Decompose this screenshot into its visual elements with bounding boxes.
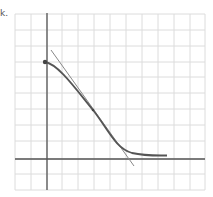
- start-point-dot: [43, 60, 47, 64]
- grid: [15, 14, 205, 190]
- graph: [0, 0, 213, 197]
- tangent-point-dot: [92, 109, 95, 112]
